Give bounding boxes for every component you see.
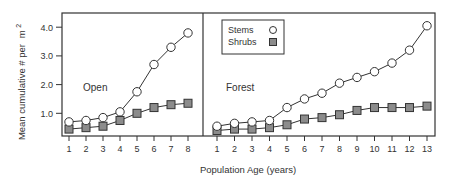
x-axis-title: Population Age (years) xyxy=(200,164,296,175)
stems-marker xyxy=(230,119,238,127)
shrubs-marker xyxy=(371,104,379,112)
y-axis-title-group: Mean cumulative # per m 2 xyxy=(15,24,27,140)
stems-marker xyxy=(167,43,175,51)
x-tick-label: 10 xyxy=(369,144,379,154)
stems-marker xyxy=(99,113,107,121)
x-tick-label: 7 xyxy=(168,144,173,154)
stems-marker xyxy=(353,73,361,81)
x-tick-label: 2 xyxy=(232,144,237,154)
x-tick-label: 2 xyxy=(83,144,88,154)
stems-marker xyxy=(370,67,378,75)
stems-marker xyxy=(423,22,431,30)
shrubs-marker xyxy=(353,106,361,114)
shrubs-marker xyxy=(336,111,344,119)
shrubs-marker xyxy=(184,99,192,107)
stems-marker xyxy=(405,46,413,54)
y-tick-label: 3.0 xyxy=(40,51,53,61)
stems-marker xyxy=(65,118,73,126)
x-tick-label: 8 xyxy=(337,144,342,154)
stems-marker xyxy=(184,29,192,37)
x-tick-label: 3 xyxy=(249,144,254,154)
shrubs-marker xyxy=(167,101,175,109)
stems-marker xyxy=(335,79,343,87)
x-tick-label: 4 xyxy=(267,144,272,154)
stems-marker xyxy=(82,116,90,124)
x-tick-label: 3 xyxy=(100,144,105,154)
x-tick-label: 8 xyxy=(185,144,190,154)
x-tick-label: 5 xyxy=(284,144,289,154)
y-tick-label: 2.0 xyxy=(40,80,53,90)
panel-label-forest: Forest xyxy=(226,82,255,93)
chart-svg: 1.02.03.04.0 1234567812345678910111213 S… xyxy=(0,0,449,186)
shrubs-marker xyxy=(99,122,107,130)
legend: StemsShrubs xyxy=(222,20,284,54)
stems-marker xyxy=(248,118,256,126)
x-tick-label: 1 xyxy=(214,144,219,154)
x-tick-label: 4 xyxy=(117,144,122,154)
stems-marker xyxy=(388,59,396,67)
shrubs-marker xyxy=(388,104,396,112)
shrubs-marker xyxy=(150,104,158,112)
shrubs-marker xyxy=(301,115,309,123)
stems-marker xyxy=(116,108,124,116)
stems-marker xyxy=(213,122,221,130)
legend-label-shrubs: Shrubs xyxy=(228,37,257,47)
shrubs-marker xyxy=(133,109,141,117)
panel-label-open: Open xyxy=(83,82,107,93)
x-tick-label: 9 xyxy=(354,144,359,154)
stems-marker xyxy=(300,95,308,103)
stems-marker xyxy=(133,88,141,96)
stems-marker xyxy=(318,89,326,97)
x-tick-label: 13 xyxy=(422,144,432,154)
legend-circle-icon xyxy=(270,27,277,34)
x-tick-label: 11 xyxy=(387,144,396,154)
shrubs-marker xyxy=(116,116,124,124)
stems-marker xyxy=(265,116,273,124)
y-tick-label: 4.0 xyxy=(40,23,53,33)
x-tick-label: 7 xyxy=(319,144,324,154)
x-tick-label: 1 xyxy=(66,144,71,154)
shrubs-marker xyxy=(406,104,414,112)
stems-marker xyxy=(283,103,291,111)
y-axis-title: Mean cumulative # per m 2 xyxy=(15,24,27,140)
shrubs-marker xyxy=(423,102,431,110)
legend-square-icon xyxy=(270,39,277,46)
x-tick-label: 5 xyxy=(134,144,139,154)
shrubs-marker xyxy=(283,121,291,129)
y-axis: 1.02.03.04.0 xyxy=(40,23,62,119)
chart-container: 1.02.03.04.0 1234567812345678910111213 S… xyxy=(0,0,449,186)
stems-marker xyxy=(150,60,158,68)
y-tick-label: 1.0 xyxy=(40,109,53,119)
x-axis: 1234567812345678910111213 xyxy=(66,136,432,154)
legend-label-stems: Stems xyxy=(228,25,254,35)
x-tick-label: 6 xyxy=(151,144,156,154)
shrubs-marker xyxy=(318,114,326,122)
x-tick-label: 12 xyxy=(404,144,414,154)
x-tick-label: 6 xyxy=(302,144,307,154)
